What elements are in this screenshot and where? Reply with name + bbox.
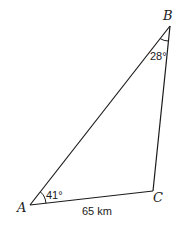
- triangle-diagram: B A C 41° 28° 65 km: [0, 0, 183, 233]
- side-label-ac: 65 km: [82, 205, 112, 217]
- vertex-label-a: A: [16, 200, 26, 215]
- angle-label-a: 41°: [46, 189, 63, 201]
- side-ab: [30, 26, 170, 205]
- vertex-label-b: B: [162, 8, 173, 23]
- vertex-label-c: C: [153, 190, 163, 205]
- angle-arc-b: [160, 39, 168, 41]
- angle-label-b: 28°: [150, 50, 167, 62]
